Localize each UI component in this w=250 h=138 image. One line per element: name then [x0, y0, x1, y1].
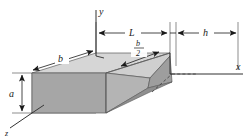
- dim-b2-denominator: 2: [136, 49, 140, 58]
- z-axis-label: z: [4, 129, 9, 138]
- z-axis-line: [10, 113, 32, 128]
- tapered-beam-solid: [32, 53, 172, 113]
- dim-L-label: L: [128, 27, 135, 38]
- dim-a-label: a: [9, 88, 14, 99]
- front-face-prismatic: [32, 73, 106, 113]
- dim-h-label: h: [203, 27, 208, 38]
- engineering-figure: y x z L h b: [0, 0, 250, 138]
- dimension-h: h: [170, 22, 238, 70]
- figure-canvas: y x z L h b: [0, 0, 250, 138]
- y-axis-label: y: [98, 6, 104, 17]
- dim-b2-numerator: b: [136, 39, 140, 48]
- dimension-a: a: [7, 73, 32, 113]
- dim-b-label: b: [58, 53, 63, 64]
